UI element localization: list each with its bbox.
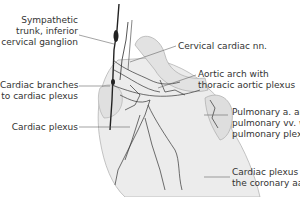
- label-aortic-arch: Aortic arch with thoracic aortic plexus: [198, 69, 295, 91]
- label-cardiac-plexus: Cardiac plexus: [0, 122, 78, 133]
- label-cardiac-plexus-coronary: Cardiac plexus (along the coronary aa.): [232, 167, 300, 189]
- inferior-cervical-ganglion: [114, 30, 119, 42]
- label-sympathetic-trunk: Sympathetic trunk, inferior cervical gan…: [0, 15, 78, 48]
- label-cardiac-branches: Cardiac branches to cardiac plexus: [0, 80, 78, 102]
- label-cervical-cardiac-nerves: Cervical cardiac nn.: [178, 41, 267, 52]
- label-pulmonary-plexus: Pulmonary a. and pulmonary vv. with pulm…: [232, 107, 300, 140]
- heart-innervation-diagram: Sympathetic trunk, inferior cervical gan…: [0, 0, 300, 197]
